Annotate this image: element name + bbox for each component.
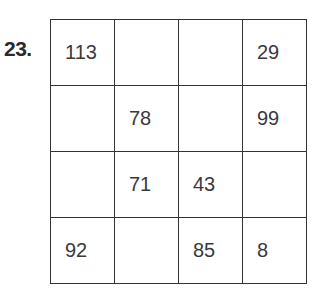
- grid-cell-r2c3: [179, 86, 243, 152]
- grid-cell-r4c3: 85: [179, 218, 243, 284]
- grid-cell-r3c3: 43: [179, 152, 243, 218]
- grid-row-3: 71 43: [51, 152, 307, 218]
- number-grid: 113 29 78 99 71 43 92 85 8: [50, 19, 307, 284]
- grid-cell-r1c4: 29: [243, 20, 307, 86]
- grid-cell-r1c1: 113: [51, 20, 115, 86]
- grid-cell-r4c4: 8: [243, 218, 307, 284]
- grid-cell-r4c2: [115, 218, 179, 284]
- grid-row-2: 78 99: [51, 86, 307, 152]
- grid-cell-r3c1: [51, 152, 115, 218]
- grid-row-1: 113 29: [51, 20, 307, 86]
- grid-row-4: 92 85 8: [51, 218, 307, 284]
- grid-cell-r2c1: [51, 86, 115, 152]
- problem-number: 23.: [4, 37, 32, 61]
- grid-cell-r3c2: 71: [115, 152, 179, 218]
- grid-cell-r1c2: [115, 20, 179, 86]
- grid-cell-r2c2: 78: [115, 86, 179, 152]
- grid-cell-r1c3: [179, 20, 243, 86]
- grid-cell-r3c4: [243, 152, 307, 218]
- grid-cell-r2c4: 99: [243, 86, 307, 152]
- grid-cell-r4c1: 92: [51, 218, 115, 284]
